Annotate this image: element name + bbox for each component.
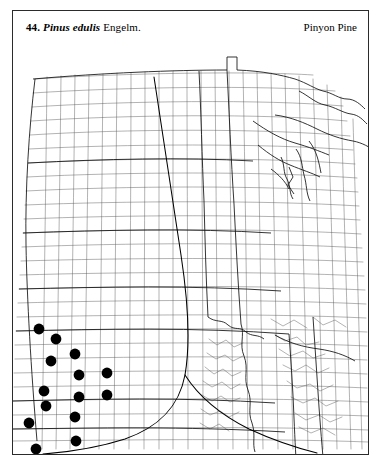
occurrence-dot [31,444,42,454]
occurrence-dot [46,356,57,367]
occurrence-dot [39,386,50,397]
map-canvas [13,49,368,454]
map-background [13,49,368,454]
scientific-name: Pinus edulis [40,21,100,33]
occurrence-dot [70,412,81,423]
occurrence-dot [71,436,82,447]
occurrence-dot [34,324,45,335]
occurrence-dot [102,390,113,401]
occurrence-dot [51,334,62,345]
authority-name: Engelm. [100,21,141,33]
map-plate-page: 44.Pinus edulisEngelm. Pinyon Pine [0,0,379,465]
plate-header: 44.Pinus edulisEngelm. Pinyon Pine [13,11,368,49]
common-name: Pinyon Pine [304,21,357,34]
distribution-map [13,49,368,454]
plate-number: 44. [26,21,40,33]
occurrence-dot [102,368,113,379]
occurrence-dot [74,392,85,403]
occurrence-dot [74,370,85,381]
plate-frame: 44.Pinus edulisEngelm. Pinyon Pine [12,10,369,455]
occurrence-dot [70,349,81,360]
species-heading: 44.Pinus edulisEngelm. [26,21,141,34]
occurrence-dot [41,401,52,412]
occurrence-dot [24,418,35,429]
